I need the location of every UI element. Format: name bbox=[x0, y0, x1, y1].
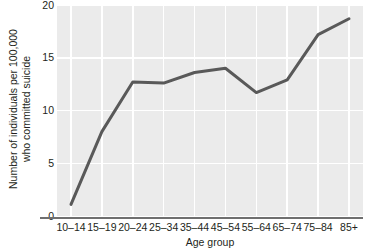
x-axis-title: Age group bbox=[57, 236, 363, 249]
x-axis-tick-label: 20–24 bbox=[118, 221, 147, 234]
y-axis-tick-label: 10 bbox=[42, 105, 54, 116]
y-axis-tick-label: 0 bbox=[48, 211, 54, 222]
plot-area bbox=[57, 5, 363, 216]
y-axis-tick-labels: 05101520 bbox=[32, 5, 54, 216]
x-axis-tick-label: 10–14 bbox=[56, 221, 85, 234]
x-axis-tick-label: 55–64 bbox=[242, 221, 271, 234]
x-axis-tick-label: 75–84 bbox=[304, 221, 333, 234]
x-axis-tick-label: 35–44 bbox=[180, 221, 209, 234]
x-axis-line bbox=[40, 217, 363, 219]
x-axis-tick-label: 85+ bbox=[340, 221, 358, 234]
y-axis-tick-label: 15 bbox=[42, 52, 54, 63]
x-axis-tick-label: 65–74 bbox=[273, 221, 302, 234]
y-axis-title-line1: Number of individuals per 100,000 bbox=[7, 29, 19, 189]
y-axis-tick-label: 20 bbox=[42, 0, 54, 11]
series-polyline bbox=[71, 19, 349, 205]
data-series-line bbox=[57, 5, 363, 216]
x-axis-tick-label: 45–54 bbox=[211, 221, 240, 234]
y-axis-tick-label: 5 bbox=[48, 158, 54, 169]
x-axis-tick-label: 25–34 bbox=[149, 221, 178, 234]
x-axis-tick-labels: 10–1415–1920–2425–3435–4445–5455–6465–74… bbox=[57, 221, 363, 235]
x-axis-tick-label: 15–19 bbox=[87, 221, 116, 234]
line-chart: Number of individuals per 100,000 who co… bbox=[0, 0, 370, 252]
